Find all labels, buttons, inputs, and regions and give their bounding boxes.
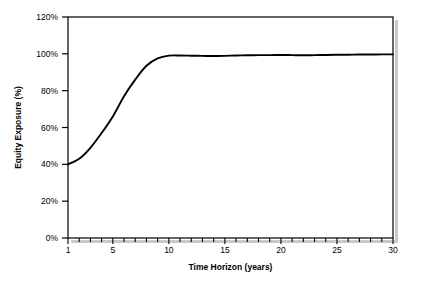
y-axis: 0% 20% 40% 60% 80% 100% 120%: [36, 12, 68, 243]
x-tick-label: 15: [220, 245, 230, 255]
plot-shadow-right: [395, 20, 398, 241]
x-axis-labels: 1 5 10 15 20 25 30: [66, 245, 398, 255]
y-tick-label: 100%: [36, 49, 58, 59]
y-tick-label: 0%: [46, 233, 59, 243]
x-tick-label: 25: [332, 245, 342, 255]
x-tick-label: 1: [66, 245, 71, 255]
y-tick-label: 60%: [41, 123, 58, 133]
y-axis-title: Equity Exposure (%): [13, 86, 23, 169]
y-tick-label: 40%: [41, 159, 58, 169]
x-tick-label: 10: [164, 245, 174, 255]
plot-background: [68, 17, 393, 238]
y-tick-group: [62, 17, 68, 238]
chart-svg: 0% 20% 40% 60% 80% 100% 120% 1 5 10 15 2…: [0, 0, 436, 282]
equity-exposure-chart: 0% 20% 40% 60% 80% 100% 120% 1 5 10 15 2…: [0, 0, 436, 282]
x-axis-title: Time Horizon (years): [189, 262, 273, 272]
x-tick-label: 5: [110, 245, 115, 255]
y-tick-label: 120%: [36, 12, 58, 22]
x-tick-label: 20: [276, 245, 286, 255]
x-tick-label: 30: [388, 245, 398, 255]
plot-shadow-bottom: [71, 240, 398, 243]
y-tick-label: 80%: [41, 86, 58, 96]
y-tick-label: 20%: [41, 196, 58, 206]
